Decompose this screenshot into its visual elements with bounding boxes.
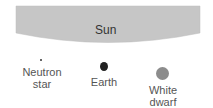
sun-label: Sun	[95, 23, 116, 37]
earth-dot	[100, 62, 108, 71]
white-dwarf-dot	[156, 67, 169, 80]
neutron-star-label: Neutron star	[20, 66, 64, 90]
white-dwarf-label: White dwarf	[142, 84, 184, 108]
earth-label: Earth	[84, 76, 124, 88]
neutron-star-dot	[40, 59, 42, 61]
